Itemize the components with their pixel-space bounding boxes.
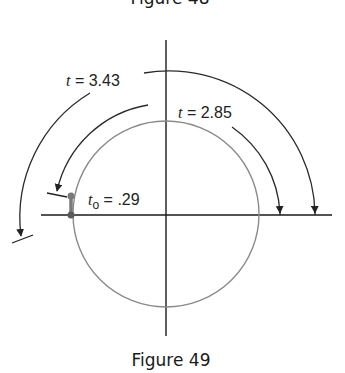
tick-t-285-left [47, 193, 67, 197]
label-t0: to = .29 [88, 191, 140, 212]
caption-bottom: Figure 49 [132, 350, 211, 370]
unit-circle-figure: Figure 48 t = 3.43 t = 2.85 to = .29 Fig… [0, 0, 345, 373]
label-t-343: t = 3.43 [66, 72, 120, 89]
caption-top: Figure 48 [131, 0, 210, 8]
arc-t-343-right [144, 71, 315, 213]
t0-point-start [68, 193, 75, 200]
label-t-285: t = 2.85 [178, 104, 232, 121]
arc-t-285-left [57, 105, 148, 191]
t0-point-origin [68, 212, 75, 219]
tick-t-343-left [12, 235, 33, 243]
arc-t-285-right [232, 127, 280, 213]
